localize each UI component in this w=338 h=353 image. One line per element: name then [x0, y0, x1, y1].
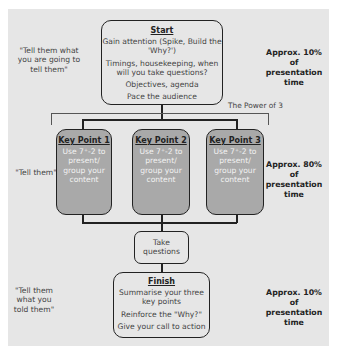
power-bracket-line [51, 113, 269, 114]
finish-line-3: Give your call to action [114, 322, 209, 331]
connector-top-bar [82, 119, 237, 121]
connector-kp1-top [82, 119, 84, 129]
right-label-bottom: Approx. 10% of presentation time [262, 288, 326, 328]
key-point-1-body: Use 7⁺-2 to present/ group your content [57, 147, 111, 184]
key-point-2-body: Use 7⁺-2 to present/ group your content [133, 147, 189, 184]
finish-line-1: Summarise your three key points [114, 288, 209, 306]
start-box: Start Gain attention (Spike, Build the '… [101, 20, 223, 105]
key-point-2-title: Key Point 2 [133, 136, 189, 145]
finish-box: Finish Summarise your three key points R… [113, 272, 210, 338]
key-point-3-box: Key Point 3 Use 7⁺-2 to present/ group y… [206, 129, 264, 215]
connector-bottom-bar [82, 222, 237, 224]
start-title: Start [102, 26, 222, 35]
finish-title: Finish [114, 277, 209, 286]
key-point-1-box: Key Point 1 Use 7⁺-2 to present/ group y… [56, 129, 112, 215]
right-label-top: Approx. 10% of presentation time [262, 48, 326, 88]
connector-kp3-top [236, 119, 238, 129]
connector-to-questions [161, 215, 163, 231]
start-line-2: Timings, housekeeping, when will you tak… [102, 59, 222, 77]
left-label-bottom: "Tell them what you told them" [12, 286, 56, 314]
key-point-2-box: Key Point 2 Use 7⁺-2 to present/ group y… [132, 129, 190, 215]
take-questions-box: Take questions [134, 231, 189, 264]
key-point-3-body: Use 7⁺-2 to present/ group your content [207, 147, 263, 184]
power-bracket-left-tick [51, 113, 52, 125]
finish-line-2: Reinforce the "Why?" [114, 310, 209, 319]
take-questions-label: Take questions [135, 238, 188, 256]
key-point-3-title: Key Point 3 [207, 136, 263, 145]
power-of-3-label: The Power of 3 [228, 101, 283, 110]
start-line-4: Pace the audience [102, 92, 222, 101]
start-line-3: Objectives, agenda [102, 80, 222, 89]
start-line-1: Gain attention (Spike, Build the 'Why?') [102, 37, 222, 55]
power-bracket-right-tick [268, 113, 269, 125]
right-label-middle: Approx. 80% of presentation time [262, 160, 326, 200]
left-label-top: "Tell them what you are going to tell th… [14, 46, 84, 74]
left-label-middle: "Tell them" [12, 168, 60, 177]
key-point-1-title: Key Point 1 [57, 136, 111, 145]
